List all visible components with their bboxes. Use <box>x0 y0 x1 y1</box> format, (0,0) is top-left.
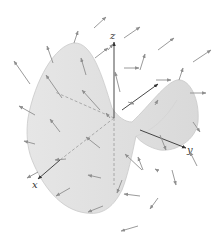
saddle-diagram: z x y <box>0 0 222 245</box>
saddle-surface <box>27 43 198 213</box>
z-axis-label: z <box>109 30 116 41</box>
x-axis-label: x <box>32 179 38 190</box>
y-axis-label: y <box>186 144 193 155</box>
